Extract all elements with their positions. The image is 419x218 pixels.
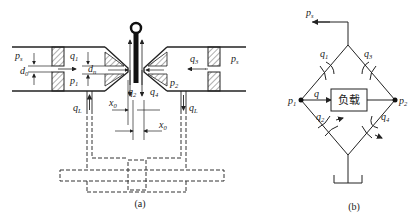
panel-a: ps d0 q1 dn p1 bbox=[12, 23, 246, 210]
label-b-q3: q3 bbox=[364, 48, 373, 60]
right-orifice-plate bbox=[208, 47, 220, 91]
label-qL-left: qL bbox=[73, 102, 82, 114]
nozzle-flapper-diagram: ps d0 q1 dn p1 bbox=[0, 0, 419, 218]
label-qL-right: qL bbox=[189, 102, 198, 114]
label-q3: q3 bbox=[190, 53, 199, 65]
label-b-ps: ps bbox=[305, 7, 314, 19]
dashed-actuator bbox=[60, 110, 224, 192]
caption-b: (b) bbox=[348, 201, 360, 213]
label-x0-right: x0 bbox=[158, 119, 167, 131]
label-q2: q2 bbox=[128, 86, 137, 98]
label-b-q4: q4 bbox=[381, 111, 390, 123]
caption-a: (a) bbox=[134, 198, 145, 210]
label-x0-left: x0 bbox=[108, 97, 117, 109]
load-label: 负载 bbox=[338, 93, 360, 107]
label-b-q: q bbox=[314, 88, 319, 99]
d0-dimension bbox=[28, 53, 52, 85]
label-p2: p2 bbox=[169, 77, 179, 89]
outlet-pipes bbox=[87, 91, 186, 110]
label-b-q1: q1 bbox=[320, 48, 328, 60]
label-ps-right: ps bbox=[230, 53, 239, 65]
left-nozzle bbox=[105, 52, 124, 86]
label-d0: d0 bbox=[20, 65, 29, 77]
label-p1: p1 bbox=[69, 75, 78, 87]
right-nozzle bbox=[148, 52, 167, 86]
label-b-p1: p1 bbox=[287, 95, 296, 107]
label-ps-left: ps bbox=[14, 50, 23, 62]
label-b-q2: q2 bbox=[316, 111, 325, 123]
label-q4: q4 bbox=[150, 86, 159, 98]
label-b-p2: p2 bbox=[398, 95, 408, 107]
label-q1: q1 bbox=[70, 50, 78, 62]
label-dn: dn bbox=[88, 63, 96, 75]
